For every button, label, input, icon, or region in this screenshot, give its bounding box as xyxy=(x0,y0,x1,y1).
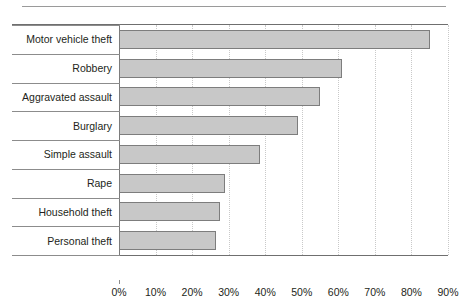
bar-burglary xyxy=(119,116,298,135)
bar-rape xyxy=(119,174,225,193)
x-tick-label: 30% xyxy=(209,286,249,298)
category-label: Simple assault xyxy=(12,148,112,160)
x-tick-label: 80% xyxy=(391,286,431,298)
category-label: Household theft xyxy=(12,206,112,218)
x-tick-label: 70% xyxy=(355,286,395,298)
bar-personal-theft xyxy=(119,231,216,250)
x-tick-label: 10% xyxy=(136,286,176,298)
x-axis-tick-mark-zero xyxy=(119,280,120,284)
category-label: Rape xyxy=(12,177,112,189)
gridline-80 xyxy=(411,25,413,255)
bar-household-theft xyxy=(119,202,220,221)
bar-motor-vehicle-theft xyxy=(119,30,430,49)
category-label: Aggravated assault xyxy=(12,91,112,103)
x-tick-label: 90% xyxy=(428,286,462,298)
row-separator xyxy=(12,255,120,256)
category-label: Burglary xyxy=(12,120,112,132)
category-label: Personal theft xyxy=(12,235,112,247)
row-separator xyxy=(12,140,120,141)
top-horizontal-rule xyxy=(22,6,446,7)
x-tick-label: 50% xyxy=(282,286,322,298)
category-label: Robbery xyxy=(12,62,112,74)
gridline-70 xyxy=(375,25,377,255)
x-tick-label: 40% xyxy=(245,286,285,298)
row-separator xyxy=(12,226,120,227)
x-tick-label: 60% xyxy=(318,286,358,298)
row-separator xyxy=(12,111,120,112)
x-tick-label: 0% xyxy=(99,286,139,298)
bar-aggravated-assault xyxy=(119,87,320,106)
bar-simple-assault xyxy=(119,145,260,164)
row-separator xyxy=(12,169,120,170)
category-label: Motor vehicle theft xyxy=(12,33,112,45)
row-separator xyxy=(12,54,120,55)
row-separator xyxy=(12,25,120,26)
x-tick-label: 20% xyxy=(172,286,212,298)
bar-robbery xyxy=(119,59,342,78)
gridline-90 xyxy=(448,25,450,255)
horizontal-bar-chart: Motor vehicle theftRobberyAggravated ass… xyxy=(12,24,448,256)
row-separator xyxy=(12,83,120,84)
row-separator xyxy=(12,198,120,199)
